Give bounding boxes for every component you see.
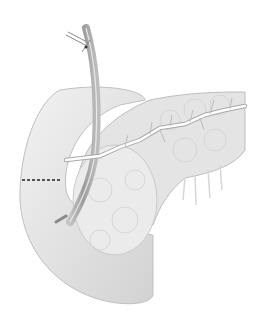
- pancreas-illustration: [0, 0, 259, 319]
- pancreas-head: [73, 145, 157, 255]
